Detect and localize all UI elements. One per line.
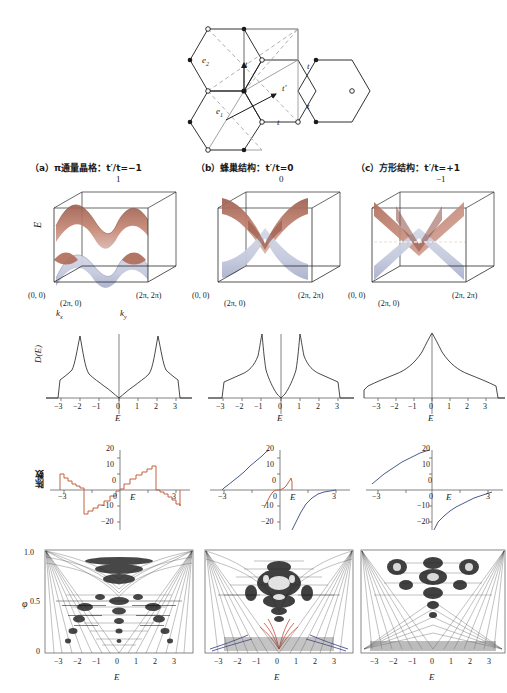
dos-xtick-b-0: −3 xyxy=(216,402,225,411)
bf-xtick-b-4: 1 xyxy=(294,657,298,666)
band-structure-honeycomb xyxy=(208,186,348,292)
chern-xlabel-a: E xyxy=(130,492,136,502)
lattice-label-t-prime: t′ xyxy=(282,83,286,93)
band-corner-kx-a: (2π, 0) xyxy=(60,299,81,308)
bf-xtick-b-0: −3 xyxy=(214,657,223,666)
chern-xtick-a-3: 3 xyxy=(172,492,176,501)
lattice-label-t-c: t xyxy=(307,101,310,111)
bf-xtick-a-0: −3 xyxy=(54,657,63,666)
dos-xtick-a-6: 3 xyxy=(173,402,177,411)
chern-ytick-a-0: 0 xyxy=(112,476,116,485)
bf-xtick-b-6: 3 xyxy=(332,657,336,666)
dos-ylabel: D(E) xyxy=(33,345,43,363)
band-corner-kx-b: (2π, 0) xyxy=(224,299,245,308)
lattice-diagram xyxy=(100,2,400,152)
dos-xlabel-b: E xyxy=(277,413,283,423)
band-corner-far-c: (2π, 2π) xyxy=(452,291,477,300)
chern-xtick-a-neg3: −3 xyxy=(58,492,67,501)
bf-xtick-a-6: 3 xyxy=(172,657,176,666)
chern-ytick-b-20: 20 xyxy=(266,444,274,453)
butterfly-honeycomb xyxy=(204,549,354,657)
chern-xtick-b-0: 0 xyxy=(273,492,277,501)
bf-xlabel-b: E xyxy=(274,672,280,682)
dos-xtick-b-5: 2 xyxy=(316,402,320,411)
chern-ytick-b-10: 10 xyxy=(266,460,274,469)
dos-xtick-c-3: 0 xyxy=(429,402,433,411)
bf-xtick-a-2: −1 xyxy=(92,657,101,666)
chern-xtick-b-3: 3 xyxy=(332,492,336,501)
panel-title-c: （c）方形结构：t′/t=+1 xyxy=(356,161,460,174)
bf-xtick-c-2: −1 xyxy=(408,657,417,666)
dos-xtick-c-4: 1 xyxy=(447,402,451,411)
bf-xtick-b-3: 0 xyxy=(275,657,279,666)
band-corner-far-a: (2π, 2π) xyxy=(136,291,161,300)
dos-xtick-c-1: −2 xyxy=(390,402,399,411)
butterfly-ylabel: φ xyxy=(22,598,28,609)
chern-ytick-b-neg20: −20 xyxy=(261,517,274,526)
chern-top-b: 0 xyxy=(279,174,284,184)
dos-xtick-c-6: 3 xyxy=(483,402,487,411)
dos-xtick-a-3: 0 xyxy=(116,402,120,411)
bf-xtick-a-5: 2 xyxy=(153,657,157,666)
dos-xtick-a-5: 2 xyxy=(154,402,158,411)
upper-band-surface xyxy=(56,205,148,249)
band-corner-origin-a: (0, 0) xyxy=(28,291,45,300)
chern-ytick-c-0: 0 xyxy=(428,476,432,485)
band-xlabel-ky-a: ky xyxy=(120,308,127,320)
butterfly-pi-flux xyxy=(44,549,194,657)
chern-xtick-c-neg3: −3 xyxy=(372,492,381,501)
chern-ytick-b-0: 0 xyxy=(272,476,276,485)
panel-title-b: （b）蜂巢结构：t′/t=0 xyxy=(196,161,294,174)
chern-xtick-c-3: 3 xyxy=(486,492,490,501)
chern-xtick-a-0: 0 xyxy=(113,492,117,501)
chern-top-a: 1 xyxy=(116,174,121,184)
dos-xtick-c-0: −3 xyxy=(372,402,381,411)
bf-xtick-b-2: −1 xyxy=(252,657,261,666)
bf-xtick-b-1: −2 xyxy=(233,657,242,666)
chern-ytick-c-10: 10 xyxy=(422,460,430,469)
bf-xtick-c-6: 3 xyxy=(487,657,491,666)
band-corner-far-b: (2π, 2π) xyxy=(298,291,323,300)
figure-root: e2 e1 t t t t′ t （a）π通量晶格：t′/t=−1 （b）蜂巢结… xyxy=(0,0,507,693)
lattice-label-e1: e1 xyxy=(216,106,223,118)
bf-xtick-c-3: 0 xyxy=(430,657,434,666)
bf-xlabel-c: E xyxy=(429,672,435,682)
dos-xtick-c-2: −1 xyxy=(408,402,417,411)
dos-xtick-b-4: 1 xyxy=(297,402,301,411)
chern-plot-square xyxy=(362,448,507,533)
chern-ytick-a-10: 10 xyxy=(106,460,114,469)
dos-xlabel-c: E xyxy=(428,413,434,423)
dos-xtick-a-2: −1 xyxy=(92,402,101,411)
dos-xtick-a-0: −3 xyxy=(54,402,63,411)
band-xlabel-kx-a: kx xyxy=(56,308,63,320)
bf-xtick-c-5: 2 xyxy=(468,657,472,666)
dos-xtick-b-6: 3 xyxy=(335,402,339,411)
basis-vector-arrows xyxy=(226,63,280,120)
bf-xtick-a-4: 1 xyxy=(134,657,138,666)
chern-ytick-c-neg20: −20 xyxy=(417,517,430,526)
dos-xtick-b-2: −1 xyxy=(254,402,263,411)
band-structure-square xyxy=(362,186,502,292)
butterfly-square xyxy=(360,549,506,657)
chern-ytick-b-neg10: −10 xyxy=(261,501,274,510)
band-corner-origin-b: (0, 0) xyxy=(192,291,209,300)
butterfly-ytick-0: 0 xyxy=(36,647,40,656)
dos-xtick-a-4: 1 xyxy=(135,402,139,411)
lattice-label-t-b: t xyxy=(307,61,310,71)
lattice-label-t-d: t xyxy=(277,117,280,127)
chern-xtick-c-0: 0 xyxy=(429,492,433,501)
chern-ytick-a-neg20: −20 xyxy=(101,517,114,526)
panel-title-a: （a）π通量晶格：t′/t=−1 xyxy=(30,161,142,174)
dos-xtick-b-3: 0 xyxy=(278,402,282,411)
band-structure-pi-flux xyxy=(44,186,184,292)
band-ylabel-a: E xyxy=(32,222,43,228)
lattice-sites-open xyxy=(206,27,355,153)
butterfly-ytick-05: 0.5 xyxy=(30,597,40,606)
dos-xlabel-a: E xyxy=(115,413,121,423)
chern-top-c: −1 xyxy=(436,174,446,184)
chern-ytick-c-neg10: −10 xyxy=(417,501,430,510)
lattice-label-e2: e2 xyxy=(202,55,209,67)
chern-xlabel-c: E xyxy=(446,492,452,502)
bf-xtick-a-1: −2 xyxy=(73,657,82,666)
bf-xtick-a-3: 0 xyxy=(115,657,119,666)
